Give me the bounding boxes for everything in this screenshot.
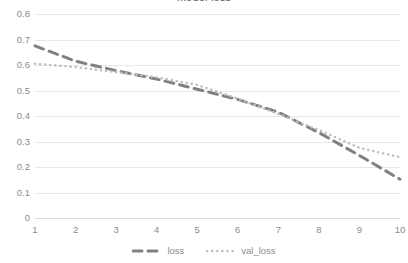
legend-swatch-loss-icon — [132, 245, 162, 257]
legend-swatch-val_loss-icon — [206, 245, 236, 257]
x-tick-label: 3 — [103, 224, 129, 236]
legend-label: val_loss — [241, 245, 275, 257]
series-line-loss — [35, 46, 400, 179]
plot-area — [35, 14, 400, 218]
y-tick-label: 0 — [0, 213, 30, 223]
y-tick-label: 0.7 — [0, 35, 30, 45]
x-tick-label: 1 — [22, 224, 48, 236]
y-tick-label: 0.8 — [0, 9, 30, 19]
x-axis: 12345678910 — [35, 224, 400, 238]
chart-title: model loss — [0, 0, 408, 2]
x-tick-label: 7 — [265, 224, 291, 236]
y-tick-label: 0.3 — [0, 137, 30, 147]
x-tick-label: 4 — [144, 224, 170, 236]
x-tick-label: 2 — [63, 224, 89, 236]
x-tick-label: 5 — [184, 224, 210, 236]
line-chart: model loss 0.80.70.60.50.40.30.20.10 123… — [0, 0, 408, 263]
y-tick-label: 0.1 — [0, 188, 30, 198]
x-tick-label: 8 — [306, 224, 332, 236]
legend-entry-loss[interactable]: loss — [132, 245, 184, 257]
legend-entry-val_loss[interactable]: val_loss — [206, 245, 275, 257]
series-lines — [35, 14, 400, 218]
chart-legend: lossval_loss — [0, 245, 408, 257]
gridline — [35, 218, 400, 219]
y-tick-label: 0.4 — [0, 111, 30, 121]
y-tick-label: 0.5 — [0, 86, 30, 96]
series-line-val_loss — [35, 64, 400, 158]
x-tick-label: 6 — [225, 224, 251, 236]
x-tick-label: 9 — [346, 224, 372, 236]
y-tick-label: 0.6 — [0, 60, 30, 70]
legend-label: loss — [167, 245, 184, 257]
y-tick-label: 0.2 — [0, 162, 30, 172]
x-tick-label: 10 — [387, 224, 408, 236]
